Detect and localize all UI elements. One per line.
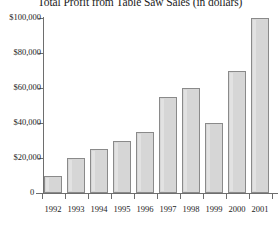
bar: [90, 149, 108, 193]
x-axis-tick: [111, 194, 112, 199]
bar-chart: Total Profit from Table Saw Sales (in do…: [0, 0, 280, 228]
y-axis-tick-label: $80,000: [13, 48, 41, 57]
x-axis-tick: [203, 194, 204, 199]
bar: [159, 97, 177, 193]
x-axis-tick: [65, 194, 66, 199]
plot-area: [44, 18, 276, 193]
bar: [136, 132, 154, 193]
y-axis-tick-label: $40,000: [13, 118, 41, 127]
y-axis-tick-label: 0: [30, 188, 34, 197]
x-axis-tick: [134, 194, 135, 199]
y-axis-tick-label: $60,000: [13, 83, 41, 92]
x-axis-tick: [226, 194, 227, 199]
x-axis-tick: [157, 194, 158, 199]
bar: [228, 71, 246, 194]
x-axis-tick: [180, 194, 181, 199]
bar: [44, 176, 62, 194]
y-axis-tick-label: $100,000: [9, 13, 41, 22]
bar: [113, 141, 131, 194]
bar: [205, 123, 223, 193]
x-axis-tick: [249, 194, 250, 199]
bar: [182, 88, 200, 193]
chart-title: Total Profit from Table Saw Sales (in do…: [0, 0, 280, 8]
y-axis-tick-label: $20,000: [13, 153, 41, 162]
x-axis-tick: [272, 194, 273, 199]
bar: [251, 18, 269, 193]
x-axis-tick: [42, 194, 43, 199]
x-axis-tick: [88, 194, 89, 199]
bar: [67, 158, 85, 193]
x-axis-tick-label: 2001: [244, 204, 276, 214]
